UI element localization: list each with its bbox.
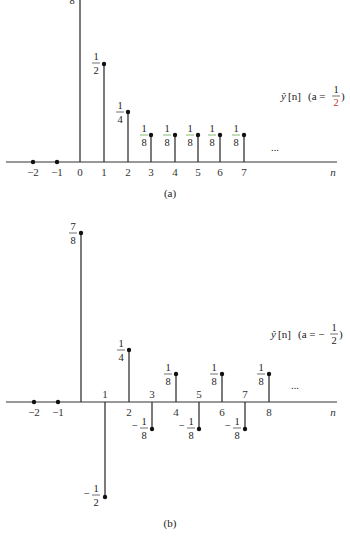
svg-text:1: 1 [331, 322, 336, 333]
stem-b-n0: 7 8 [69, 221, 83, 402]
svg-text:[n]: [n] [288, 90, 301, 102]
tick-labels-b: −2 −1 2 4 6 8 1 3 5 7 n [28, 388, 336, 418]
svg-text:): ) [341, 90, 345, 103]
svg-text:1: 1 [165, 362, 170, 373]
svg-text:2: 2 [333, 97, 338, 108]
svg-text:(a =: (a = [308, 90, 326, 103]
svg-text:8: 8 [258, 376, 263, 387]
svg-text:8: 8 [187, 137, 192, 148]
svg-text:2: 2 [126, 406, 132, 418]
svg-text:1: 1 [187, 123, 192, 134]
svg-text:−2: −2 [28, 406, 40, 418]
svg-text:8: 8 [233, 137, 238, 148]
svg-text:8: 8 [266, 406, 272, 418]
svg-text:4: 4 [173, 406, 179, 418]
ellipsis-b: ... [291, 380, 299, 391]
stem-point-b-n-1 [56, 400, 60, 404]
svg-text:1: 1 [141, 123, 146, 134]
svg-text:8: 8 [211, 376, 216, 387]
svg-text:(a = −: (a = − [298, 328, 324, 341]
svg-text:7: 7 [70, 221, 75, 232]
svg-text:0: 0 [77, 166, 83, 178]
stem-point-a-n2 [126, 110, 130, 114]
stem-b-n1: − 1 2 [84, 402, 107, 508]
frac-label-a-n1: 1 2 [92, 51, 100, 76]
stem-b-n5: − 1 8 [179, 402, 201, 441]
stem-b-n3: − 1 8 [132, 402, 154, 441]
panel-a: 8 1 2 1 4 1 8 1 8 [6, 0, 345, 200]
svg-text:1: 1 [211, 362, 216, 373]
svg-text:1: 1 [258, 362, 263, 373]
svg-text:4: 4 [172, 166, 178, 178]
stem-point-b-n-2 [32, 400, 36, 404]
svg-text:6: 6 [217, 166, 223, 178]
svg-text:−1: −1 [51, 166, 63, 178]
panel-b: 7 8 − 1 2 1 4 − 1 8 [6, 221, 343, 530]
stem-a-n7: 1 8 [232, 123, 246, 162]
svg-text:8: 8 [141, 137, 146, 148]
svg-text:−: − [132, 420, 138, 431]
svg-text:4: 4 [118, 352, 124, 363]
svg-text:): ) [339, 328, 343, 341]
svg-text:7: 7 [241, 166, 247, 178]
svg-text:1: 1 [164, 123, 169, 134]
svg-text:7: 7 [242, 388, 248, 400]
svg-text:1: 1 [101, 166, 107, 178]
label-a-n0-partial: 8 [69, 0, 74, 6]
ellipsis-a: ... [271, 142, 279, 153]
svg-text:1: 1 [333, 84, 338, 95]
svg-text:2: 2 [93, 497, 98, 508]
svg-text:3: 3 [148, 166, 154, 178]
stem-point-a-n-1 [55, 160, 59, 164]
x-axis-label-b: n [330, 406, 336, 418]
svg-text:1: 1 [188, 416, 193, 427]
svg-text:2: 2 [331, 335, 336, 346]
figure-canvas: 8 1 2 1 4 1 8 1 8 [0, 0, 350, 542]
svg-text:8: 8 [141, 430, 146, 441]
stem-b-n2: 1 4 [117, 338, 131, 402]
svg-text:−2: −2 [27, 166, 39, 178]
svg-text:2: 2 [93, 65, 98, 76]
svg-text:1: 1 [117, 100, 122, 111]
svg-text:1: 1 [93, 483, 98, 494]
svg-text:−: − [84, 488, 90, 499]
svg-text:3: 3 [149, 388, 155, 400]
svg-text:[n]: [n] [278, 328, 291, 340]
svg-text:1: 1 [233, 123, 238, 134]
stem-point-a-n1 [102, 62, 106, 66]
stem-a-n5: 1 8 [186, 123, 200, 162]
stem-a-n4: 1 8 [163, 123, 177, 162]
svg-text:8: 8 [188, 430, 193, 441]
svg-text:1: 1 [141, 416, 146, 427]
stem-b-n8: 1 8 [257, 362, 271, 402]
legend-a: ŷ [n] (a = 1 2 ) [280, 84, 345, 108]
stem-b-n6: 1 8 [210, 362, 224, 402]
svg-text:8: 8 [164, 137, 169, 148]
stem-a-n6: 1 8 [208, 123, 222, 162]
svg-text:8: 8 [234, 430, 239, 441]
svg-text:ŷ: ŷ [280, 90, 286, 102]
svg-text:4: 4 [117, 114, 123, 125]
x-axis-label-a: n [330, 166, 336, 178]
frac-label-a-n2: 1 4 [116, 100, 124, 125]
caption-b: (b) [164, 517, 177, 530]
svg-text:ŷ: ŷ [270, 328, 276, 340]
svg-text:6: 6 [219, 406, 225, 418]
svg-text:8: 8 [209, 137, 214, 148]
tick-labels-a: −2 −1 0 1 2 3 4 5 6 7 n [27, 166, 336, 178]
stem-a-n3: 1 8 [140, 123, 153, 162]
stem-point-a-n-2 [31, 160, 35, 164]
svg-text:−1: −1 [52, 406, 64, 418]
svg-text:8: 8 [165, 376, 170, 387]
svg-text:−: − [179, 420, 185, 431]
svg-text:5: 5 [196, 388, 202, 400]
svg-text:1: 1 [93, 51, 98, 62]
stem-b-n7: − 1 8 [225, 402, 247, 441]
svg-text:2: 2 [125, 166, 131, 178]
svg-text:−: − [225, 420, 231, 431]
legend-b: ŷ [n] (a = − 1 2 ) [270, 322, 343, 346]
svg-text:1: 1 [234, 416, 239, 427]
svg-text:1: 1 [118, 338, 123, 349]
stem-b-n4: 1 8 [164, 362, 178, 402]
caption-a: (a) [164, 187, 177, 200]
